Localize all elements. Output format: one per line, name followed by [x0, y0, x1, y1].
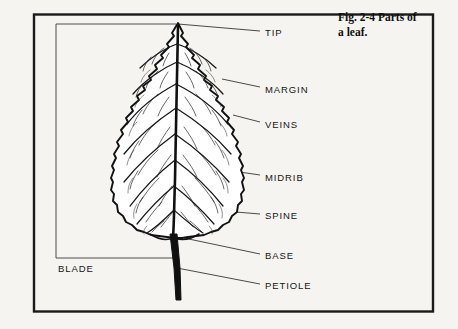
- label-blade: BLADE: [58, 263, 94, 274]
- label-veins: VEINS: [265, 119, 298, 130]
- leader-base: [184, 238, 260, 254]
- label-petiole: PETIOLE: [265, 280, 311, 291]
- petiole-stalk: [170, 234, 181, 300]
- leader-veins: [233, 115, 260, 122]
- label-midrib: MIDRIB: [265, 172, 304, 183]
- diagram-canvas: [0, 0, 458, 329]
- leader-margin: [222, 79, 260, 87]
- figure-leaf-diagram: TIP MARGIN VEINS MIDRIB SPINE BASE PETIO…: [0, 0, 458, 329]
- figure-caption: Fig. 2-4 Parts of a leaf.: [338, 10, 454, 40]
- label-tip: TIP: [265, 27, 282, 38]
- figure-caption-line-1: Fig. 2-4 Parts of: [338, 10, 454, 25]
- label-base: BASE: [265, 250, 294, 261]
- figure-caption-line-2: a leaf.: [338, 25, 454, 40]
- label-spine: SPINE: [265, 210, 298, 221]
- leaf-drawing: [111, 23, 244, 300]
- leader-petiole: [177, 268, 260, 284]
- label-margin: MARGIN: [265, 84, 308, 95]
- leader-tip: [178, 24, 260, 31]
